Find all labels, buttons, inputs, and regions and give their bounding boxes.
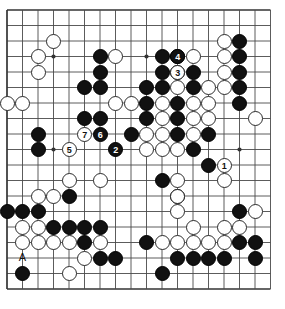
black-stone xyxy=(155,49,170,64)
black-stone xyxy=(232,80,247,95)
move-stone-3: 3 xyxy=(170,65,185,80)
white-stone xyxy=(77,251,92,266)
white-stone xyxy=(186,96,201,111)
black-stone xyxy=(93,220,108,235)
move-number-label: 2 xyxy=(109,146,122,155)
move-stone-7: 7 xyxy=(77,127,92,142)
black-stone xyxy=(31,204,46,219)
move-number-label: 4 xyxy=(171,53,184,62)
black-stone xyxy=(170,251,185,266)
black-stone xyxy=(186,80,201,95)
white-stone xyxy=(46,34,61,49)
move-number-label: 1 xyxy=(218,162,231,171)
white-stone xyxy=(31,220,46,235)
black-stone xyxy=(170,111,185,126)
white-stone xyxy=(46,235,61,250)
white-stone xyxy=(217,49,232,64)
black-stone xyxy=(170,96,185,111)
black-stone xyxy=(93,80,108,95)
white-stone xyxy=(62,173,77,188)
move-stone-1: 1 xyxy=(217,158,232,173)
black-stone xyxy=(232,235,247,250)
move-stone-2: 2 xyxy=(108,142,123,157)
white-stone xyxy=(155,96,170,111)
white-stone xyxy=(155,142,170,157)
black-stone xyxy=(232,204,247,219)
white-stone xyxy=(0,96,15,111)
move-number-label: 3 xyxy=(171,69,184,78)
white-stone xyxy=(31,189,46,204)
black-stone xyxy=(232,65,247,80)
black-stone xyxy=(77,220,92,235)
white-stone xyxy=(62,235,77,250)
black-stone xyxy=(155,266,170,281)
black-stone xyxy=(62,220,77,235)
white-stone xyxy=(217,220,232,235)
white-stone xyxy=(217,65,232,80)
black-stone xyxy=(186,251,201,266)
white-stone xyxy=(186,235,201,250)
white-stone xyxy=(232,220,247,235)
white-stone xyxy=(201,96,216,111)
white-stone xyxy=(124,96,139,111)
black-stone xyxy=(186,65,201,80)
move-stone-4: 4 xyxy=(170,49,185,64)
white-stone xyxy=(170,204,185,219)
move-number-label: 7 xyxy=(78,131,91,140)
black-stone xyxy=(77,111,92,126)
black-stone xyxy=(232,34,247,49)
white-stone xyxy=(170,173,185,188)
black-stone xyxy=(201,158,216,173)
black-stone xyxy=(15,204,30,219)
black-stone xyxy=(31,127,46,142)
white-stone xyxy=(248,204,263,219)
white-stone xyxy=(201,235,216,250)
white-stone xyxy=(31,49,46,64)
white-stone xyxy=(31,65,46,80)
white-stone xyxy=(186,111,201,126)
white-stone xyxy=(155,127,170,142)
white-stone xyxy=(15,96,30,111)
white-stone xyxy=(186,220,201,235)
black-stone xyxy=(232,49,247,64)
white-stone xyxy=(93,173,108,188)
move-stone-6: 6 xyxy=(93,127,108,142)
white-stone xyxy=(93,235,108,250)
black-stone xyxy=(124,127,139,142)
move-number-label: 6 xyxy=(94,131,107,140)
black-stone xyxy=(186,142,201,157)
black-stone xyxy=(201,127,216,142)
white-stone xyxy=(248,111,263,126)
white-stone xyxy=(108,96,123,111)
black-stone xyxy=(93,111,108,126)
black-stone xyxy=(139,96,154,111)
white-stone xyxy=(217,80,232,95)
black-stone xyxy=(31,142,46,157)
black-stone xyxy=(93,65,108,80)
white-stone xyxy=(139,142,154,157)
white-stone xyxy=(170,235,185,250)
move-number-label: 5 xyxy=(63,146,76,155)
black-stone xyxy=(0,204,15,219)
white-stone xyxy=(201,111,216,126)
black-stone xyxy=(15,266,30,281)
black-stone xyxy=(108,251,123,266)
black-stone xyxy=(139,80,154,95)
white-stone xyxy=(108,49,123,64)
white-stone xyxy=(217,34,232,49)
move-stone-5: 5 xyxy=(62,142,77,157)
black-stone xyxy=(155,80,170,95)
black-stone xyxy=(62,189,77,204)
white-stone xyxy=(15,220,30,235)
black-stone xyxy=(77,235,92,250)
white-stone xyxy=(186,49,201,64)
black-stone xyxy=(46,220,61,235)
black-stone xyxy=(170,127,185,142)
black-stone xyxy=(248,251,263,266)
black-stone xyxy=(139,111,154,126)
black-stone xyxy=(77,80,92,95)
black-stone xyxy=(248,235,263,250)
black-stone xyxy=(155,173,170,188)
white-stone xyxy=(155,111,170,126)
black-stone xyxy=(93,49,108,64)
